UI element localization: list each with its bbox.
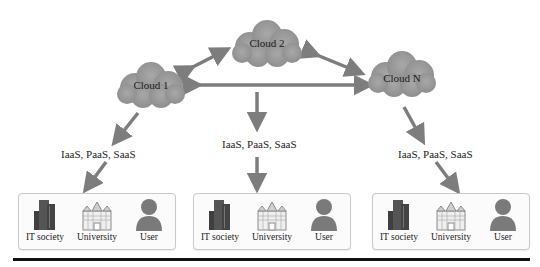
university-icon xyxy=(255,197,289,231)
member-it-society: IT society xyxy=(19,197,71,242)
arrow-cloudN-down-1 xyxy=(404,107,420,136)
member-label: User xyxy=(477,232,529,242)
member-label: IT society xyxy=(373,232,425,242)
member-it-society: IT society xyxy=(194,197,246,242)
bottom-rule xyxy=(13,258,530,261)
cloud-n-label: Cloud N xyxy=(364,72,440,84)
university-icon xyxy=(80,197,114,231)
member-university: University xyxy=(425,197,477,242)
client-group-center: IT society University xyxy=(193,193,351,250)
arrow-cloud1-down-2 xyxy=(89,162,106,185)
user-icon xyxy=(488,197,518,231)
building-icon xyxy=(384,197,414,231)
client-group-left: IT society University xyxy=(18,193,176,250)
member-university: University xyxy=(246,197,298,242)
cloud-1-label: Cloud 1 xyxy=(113,79,189,91)
member-label: IT society xyxy=(19,232,71,242)
member-user: User xyxy=(298,197,350,242)
arrow-cloud1-down-1 xyxy=(118,113,138,138)
building-icon xyxy=(205,197,235,231)
service-label-right: IaaS, PaaS, SaaS xyxy=(398,148,473,160)
client-group-right: IT society University xyxy=(372,193,530,250)
member-university: University xyxy=(71,197,123,242)
arrow-cloudN-down-2 xyxy=(436,162,454,186)
arrow-cloud2-cloudN xyxy=(312,53,356,71)
member-label: University xyxy=(71,232,123,242)
member-it-society: IT society xyxy=(373,197,425,242)
member-label: User xyxy=(298,232,350,242)
cloud-2: Cloud 2 xyxy=(228,17,306,69)
arrow-cloud1-cloud2 xyxy=(187,52,222,70)
member-user: User xyxy=(477,197,529,242)
university-icon xyxy=(434,197,468,231)
building-icon xyxy=(30,197,60,231)
cloud-diagram: Cloud 1 Cloud 2 xyxy=(0,0,540,267)
service-label-left: IaaS, PaaS, SaaS xyxy=(61,148,136,160)
member-label: User xyxy=(123,232,175,242)
cloud-1: Cloud 1 xyxy=(113,58,189,111)
user-icon xyxy=(309,197,339,231)
service-label-center: IaaS, PaaS, SaaS xyxy=(222,138,297,150)
member-label: University xyxy=(425,232,477,242)
member-user: User xyxy=(123,197,175,242)
cloud-n: Cloud N xyxy=(364,47,440,100)
user-icon xyxy=(134,197,164,231)
member-label: IT society xyxy=(194,232,246,242)
cloud-2-label: Cloud 2 xyxy=(228,37,306,49)
member-label: University xyxy=(246,232,298,242)
